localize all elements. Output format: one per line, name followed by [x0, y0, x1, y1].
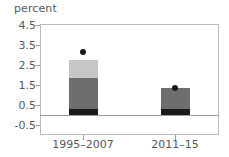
bar-segment[interactable] [69, 109, 98, 115]
y-axis-tick-label: 3.5 [2, 39, 36, 52]
bar-segment[interactable] [161, 109, 190, 115]
data-point-marker[interactable] [172, 85, 178, 91]
bar-segment[interactable] [161, 88, 190, 109]
y-axis-tick-mark [36, 85, 40, 86]
bar[interactable] [69, 0, 98, 157]
y-axis-tick-mark [36, 105, 40, 106]
plot-area [40, 24, 219, 135]
y-axis-tick-mark [36, 25, 40, 26]
y-axis-tick-label: 2.5 [2, 59, 36, 72]
y-axis-tick-mark [36, 125, 40, 126]
y-axis-tick-label: 1.5 [2, 79, 36, 92]
y-axis-tick-mark [36, 65, 40, 66]
data-point-marker[interactable] [80, 49, 86, 55]
y-axis-tick-mark [36, 45, 40, 46]
y-axis-tick-label: 0.5 [2, 99, 36, 112]
y-axis-tick-label: -0.5 [2, 119, 36, 132]
bar[interactable] [161, 0, 190, 157]
bar-segment[interactable] [69, 60, 98, 78]
bar-segment[interactable] [69, 78, 98, 109]
y-axis-tick-label: 4.5 [2, 19, 36, 32]
zero-baseline [40, 115, 219, 116]
y-axis: 4.53.52.51.50.5-0.5 [0, 0, 36, 157]
chart-container: percent 4.53.52.51.50.5-0.5 1995–2007201… [0, 0, 229, 157]
